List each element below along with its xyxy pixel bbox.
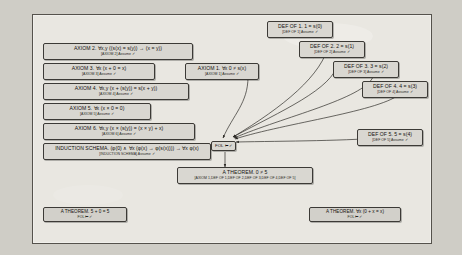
induction-schema-formula: INDUCTION SCHEMA. (φ(0) ∧ ∀x (φ(x) → φ(s… [48,145,206,152]
def-of-4-formula: DEF OF 4. 4 = s(3) [367,83,423,90]
def-of-1-formula: DEF OF 1. 1 = s(0) [272,23,328,30]
axiom-4-formula: AXIOM 4. ∀x,y (x + (s(y)) = s(x + y)) [48,85,184,92]
node-axiom-2[interactable]: AXIOM 2. ∀x,y ((s(x) = s(y)) → (x = y)) … [43,43,193,60]
node-def-of-1[interactable]: DEF OF 1. 1 = s(0) [DEF OF 1] Assume ✓ [267,21,333,38]
axiom-1-justification: [AXIOM 1] Assume ✓ [190,72,254,77]
theorem-main-formula: A THEOREM. 0 ≠ 5 [182,169,308,176]
axiom-3-justification: [AXIOM 3] Assume ✓ [48,72,150,77]
axiom-3-formula: AXIOM 3. ∀x (x + 0 = x) [48,65,150,72]
edge-def3-to-fol [234,77,373,138]
theorem-right-justification: FOL ⊢ ✓ [313,215,397,220]
theorem-main-justification: [AXIOM 1,DEF OF 1,DEF OF 2,DEF OF 3,DEF … [182,176,308,181]
proof-canvas[interactable]: AXIOM 2. ∀x,y ((s(x) = s(y)) → (x = y)) … [32,14,432,244]
def-of-1-justification: [DEF OF 1] Assume ✓ [272,30,328,35]
axiom-2-formula: AXIOM 2. ∀x,y ((s(x) = s(y)) → (x = y)) [48,45,188,52]
axiom-4-justification: [AXIOM 4] Assume ✓ [48,92,184,97]
def-of-3-formula: DEF OF 3. 3 = s(2) [338,63,394,70]
node-def-of-2[interactable]: DEF OF 2. 2 = s(1) [DEF OF 2] Assume ✓ [299,41,365,58]
node-def-of-3[interactable]: DEF OF 3. 3 = s(2) [DEF OF 3] Assume ✓ [333,61,399,78]
induction-schema-justification: [INDUCTION SCHEMA] Assume ✓ [48,152,206,157]
def-of-5-formula: DEF OF 5. 5 = s(4) [362,131,418,138]
axiom-1-formula: AXIOM 1. ∀x 0 ≠ s(x) [190,65,254,72]
axiom-5-formula: AXIOM 5. ∀x (x × 0 = 0) [48,105,146,112]
node-axiom-5[interactable]: AXIOM 5. ∀x (x × 0 = 0) [AXIOM 5] Assume… [43,103,151,120]
node-theorem-zero-plus-x[interactable]: A THEOREM. ∀x (0 + x = x) FOL ⊢ ✓ [309,207,401,222]
node-fol-hub[interactable]: FOL ⊢ ✓ [211,141,236,151]
axiom-5-justification: [AXIOM 5] Assume ✓ [48,112,146,117]
edge-axiom1-to-fol [223,77,248,138]
node-def-of-5[interactable]: DEF OF 5. 5 = s(4) [DEF OF 5] Assume ✓ [357,129,423,146]
node-axiom-4[interactable]: AXIOM 4. ∀x,y (x + (s(y)) = s(x + y)) [A… [43,83,189,100]
axiom-2-justification: [AXIOM 2] Assume ✓ [48,52,188,57]
node-def-of-4[interactable]: DEF OF 4. 4 = s(3) [DEF OF 4] Assume ✓ [362,81,428,98]
node-theorem-five-plus-zero[interactable]: A THEOREM. 5 + 0 = 5 FOL ⊢ ✓ [43,207,127,222]
def-of-3-justification: [DEF OF 3] Assume ✓ [338,70,394,75]
theorem-left-justification: FOL ⊢ ✓ [47,215,123,220]
node-axiom-1[interactable]: AXIOM 1. ∀x 0 ≠ s(x) [AXIOM 1] Assume ✓ [185,63,259,80]
axiom-6-formula: AXIOM 6. ∀x,y (x × (s(y)) = (x × y) + x) [48,125,190,132]
def-of-5-justification: [DEF OF 5] Assume ✓ [362,138,418,143]
def-of-2-justification: [DEF OF 2] Assume ✓ [304,50,360,55]
node-axiom-6[interactable]: AXIOM 6. ∀x,y (x × (s(y)) = (x × y) + x)… [43,123,195,140]
axiom-6-justification: [AXIOM 6] Assume ✓ [48,132,190,137]
canvas-glare-secondary [53,185,123,205]
node-induction-schema[interactable]: INDUCTION SCHEMA. (φ(0) ∧ ∀x (φ(x) → φ(s… [43,143,211,160]
node-axiom-3[interactable]: AXIOM 3. ∀x (x + 0 = x) [AXIOM 3] Assume… [43,63,155,80]
node-theorem-zero-not-five[interactable]: A THEOREM. 0 ≠ 5 [AXIOM 1,DEF OF 1,DEF O… [177,167,313,184]
def-of-2-formula: DEF OF 2. 2 = s(1) [304,43,360,50]
def-of-4-justification: [DEF OF 4] Assume ✓ [367,90,423,95]
